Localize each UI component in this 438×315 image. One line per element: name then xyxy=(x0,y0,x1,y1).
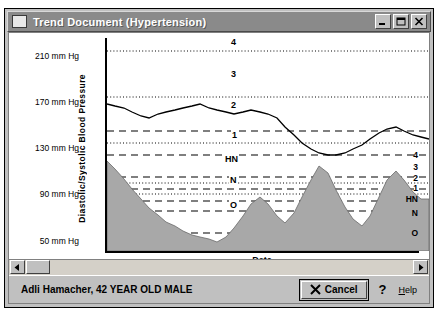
help-link-rest: elp xyxy=(405,285,417,295)
y-tick-2: 130 mm Hg xyxy=(35,143,79,153)
patient-info: Adli Hamacher, 42 YEAR OLD MALE xyxy=(21,284,193,295)
window-control-buttons xyxy=(375,14,427,29)
client-area: 210 mm Hg 170 mm Hg 130 mm Hg 90 mm Hg 5… xyxy=(8,32,430,304)
minimize-button[interactable] xyxy=(375,14,391,29)
stage-label-center-4: 4 xyxy=(230,37,237,47)
cancel-button-label: Cancel xyxy=(325,284,358,295)
scrollbar-thumb[interactable] xyxy=(26,260,50,274)
y-axis-title-text: Diastolic/Systolic Blood Pressure xyxy=(77,74,87,223)
stage-label-center-2: 2 xyxy=(230,100,237,110)
status-bar: Adli Hamacher, 42 YEAR OLD MALE Cancel ?… xyxy=(9,275,429,303)
cancel-button[interactable]: Cancel xyxy=(301,281,367,299)
help-question-icon[interactable]: ? xyxy=(379,282,387,297)
plot-area: 4 3 2 1 HN N O 4 3 2 1 HN N O xyxy=(105,38,419,253)
maximize-button[interactable] xyxy=(393,14,409,29)
stage-label-center-n: N xyxy=(229,175,238,185)
horizontal-scrollbar[interactable] xyxy=(9,259,429,275)
stage-label-right-4: 4 xyxy=(413,150,418,160)
triangle-right-icon xyxy=(417,264,424,271)
stage-label-right-3: 3 xyxy=(413,162,418,172)
y-axis-title: Diastolic/Systolic Blood Pressure xyxy=(75,63,89,233)
stage-label-right-o: O xyxy=(411,228,418,238)
y-tick-3: 90 mm Hg xyxy=(40,189,79,199)
close-button[interactable] xyxy=(411,14,427,29)
scroll-left-button[interactable] xyxy=(10,260,25,274)
trend-document-window: Trend Document (Hypertension) 210 mm Hg … xyxy=(4,8,434,308)
document-icon xyxy=(12,15,27,28)
stage-label-center-3: 3 xyxy=(230,69,237,79)
stage-label-right-1: 1 xyxy=(413,183,418,193)
title-bar[interactable]: Trend Document (Hypertension) xyxy=(7,11,431,32)
diastolic-area xyxy=(107,161,429,251)
y-axis-tick-labels: 210 mm Hg 170 mm Hg 130 mm Hg 90 mm Hg 5… xyxy=(9,33,83,258)
close-x-icon xyxy=(310,284,321,295)
help-link[interactable]: Help xyxy=(398,285,417,295)
window-title: Trend Document (Hypertension) xyxy=(33,16,206,28)
stage-label-right-n: N xyxy=(412,208,418,218)
trend-chart: 210 mm Hg 170 mm Hg 130 mm Hg 90 mm Hg 5… xyxy=(9,33,429,271)
stage-label-center-o: O xyxy=(229,200,238,210)
stage-label-center-hn: HN xyxy=(224,154,239,164)
triangle-left-icon xyxy=(14,264,21,271)
stage-label-right-hn: HN xyxy=(406,194,418,204)
y-tick-4: 50 mm Hg xyxy=(40,236,79,246)
y-tick-0: 210 mm Hg xyxy=(35,51,79,61)
y-tick-1: 170 mm Hg xyxy=(35,97,79,107)
grid-dotted xyxy=(107,51,429,194)
stage-label-right-2: 2 xyxy=(413,173,418,183)
stage-label-center-1: 1 xyxy=(231,130,238,140)
systolic-line xyxy=(107,104,429,155)
plot-svg xyxy=(107,38,429,251)
scroll-right-button[interactable] xyxy=(413,260,428,274)
